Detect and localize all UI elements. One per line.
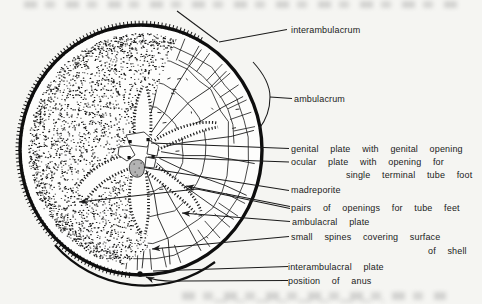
label-pairs-openings: pairs of openings for tube feet bbox=[291, 203, 460, 213]
label-ocular-plate-line2: single terminal tube foot bbox=[346, 170, 472, 180]
label-interambulacral-plate: interambulacral plate bbox=[288, 262, 384, 272]
label-small-spines-line1: small spines covering surface bbox=[291, 232, 440, 242]
figure-scan-page: interambulacrum ambulacrum genital plate… bbox=[0, 0, 482, 304]
label-interambulacrum: interambulacrum bbox=[291, 25, 360, 35]
label-column: interambulacrum ambulacrum genital plate… bbox=[0, 0, 482, 304]
label-genital-plate: genital plate with genital opening bbox=[291, 144, 463, 154]
label-ocular-plate-line1: ocular plate with opening for bbox=[291, 157, 444, 167]
label-madreporite: madreporite bbox=[291, 185, 341, 195]
label-ambulacrum: ambulacrum bbox=[294, 94, 345, 104]
label-ambulacral-plate: ambulacral plate bbox=[292, 217, 369, 227]
label-small-spines-line2: of shell bbox=[428, 246, 467, 256]
label-position-of-anus: position of anus bbox=[288, 276, 371, 286]
